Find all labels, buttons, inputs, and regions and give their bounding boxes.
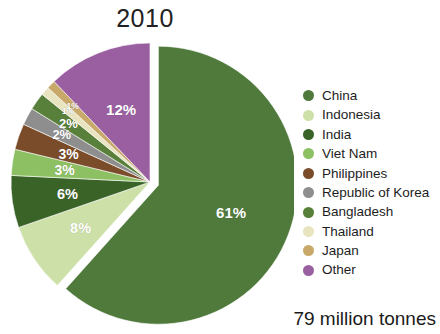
legend-item-label: Indonesia xyxy=(322,108,381,122)
chart-legend: ChinaIndonesiaIndiaViet NamPhilippinesRe… xyxy=(303,86,440,280)
legend-item: Philippines xyxy=(303,164,440,183)
pie-slice-value-label: 1% xyxy=(67,101,80,111)
pie-svg: 61%8%6%3%3%2%2%1%1%12% xyxy=(8,38,294,326)
legend-swatch-icon xyxy=(303,207,314,218)
legend-item: Japan xyxy=(303,241,440,260)
legend-item: Thailand xyxy=(303,222,440,241)
legend-item-label: Japan xyxy=(322,244,359,258)
pie-slice-value-label: 2% xyxy=(59,116,78,131)
pie-slice-value-label: 6% xyxy=(57,186,78,202)
legend-item-label: Thailand xyxy=(322,225,374,239)
legend-swatch-icon xyxy=(303,245,314,256)
legend-swatch-icon xyxy=(303,265,314,276)
legend-item-label: India xyxy=(322,128,351,142)
legend-swatch-icon xyxy=(303,168,314,179)
legend-item-label: Viet Nam xyxy=(322,147,377,161)
chart-title: 2010 xyxy=(0,4,290,33)
pie-slice-value-label: 3% xyxy=(58,146,79,162)
legend-swatch-icon xyxy=(303,187,314,198)
legend-swatch-icon xyxy=(303,90,314,101)
legend-item-label: Philippines xyxy=(322,167,387,181)
legend-item: Republic of Korea xyxy=(303,183,440,202)
pie-chart-figure: 2010 61%8%6%3%3%2%2%1%1%12% ChinaIndones… xyxy=(0,0,440,334)
pie-slice-value-label: 12% xyxy=(106,101,136,118)
pie-slices xyxy=(11,43,294,324)
legend-swatch-icon xyxy=(303,129,314,140)
pie-slice-value-label: 61% xyxy=(216,204,246,221)
legend-item: Indonesia xyxy=(303,105,440,124)
legend-item: India xyxy=(303,125,440,144)
pie-chart-graphic: 61%8%6%3%3%2%2%1%1%12% xyxy=(8,38,294,326)
legend-item: Other xyxy=(303,261,440,280)
legend-item-label: Bangladesh xyxy=(322,205,393,219)
legend-swatch-icon xyxy=(303,148,314,159)
legend-swatch-icon xyxy=(303,226,314,237)
legend-swatch-icon xyxy=(303,110,314,121)
pie-slice-value-label: 8% xyxy=(70,220,91,236)
total-tonnes-label: 79 million tonnes xyxy=(293,308,436,330)
pie-slice-value-label: 3% xyxy=(55,162,76,178)
legend-item-label: Other xyxy=(322,263,356,277)
legend-item: Bangladesh xyxy=(303,202,440,221)
legend-item: China xyxy=(303,86,440,105)
legend-item: Viet Nam xyxy=(303,144,440,163)
legend-item-label: China xyxy=(322,89,357,103)
legend-item-label: Republic of Korea xyxy=(322,186,429,200)
